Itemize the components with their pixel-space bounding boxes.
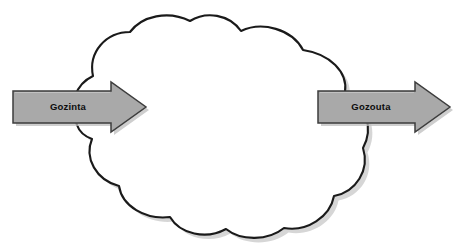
diagram-canvas: Gozinta Gozouta — [0, 0, 458, 247]
diagram-graphics — [0, 0, 458, 247]
gozinta-arrow-label: Gozinta — [34, 102, 102, 112]
gozouta-arrow-label: Gozouta — [336, 102, 406, 112]
